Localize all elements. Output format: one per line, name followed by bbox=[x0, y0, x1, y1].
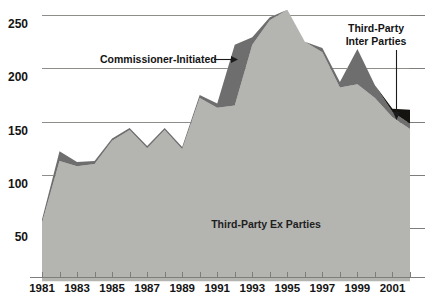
series-label-third-party-ex-parties: Third-Party Ex Parties bbox=[211, 218, 321, 230]
x-tick-label-1981: 1981 bbox=[29, 282, 55, 294]
area-chart: 1981198319851987198919911993199519971999… bbox=[0, 0, 437, 308]
x-tick-label-1999: 1999 bbox=[345, 282, 371, 294]
x-tick-label-1985: 1985 bbox=[99, 282, 125, 294]
x-tick-label-1983: 1983 bbox=[64, 282, 90, 294]
annotation-commissioner-initiated-label: Commissioner-Initiated bbox=[100, 53, 217, 65]
x-axis-tick-labels: 1981198319851987198919911993199519971999… bbox=[29, 282, 406, 294]
x-tick-label-1993: 1993 bbox=[240, 282, 266, 294]
y-tick-label-50: 50 bbox=[15, 230, 29, 244]
x-tick-label-1997: 1997 bbox=[310, 282, 336, 294]
x-tick-label-1987: 1987 bbox=[134, 282, 160, 294]
annotation-inter-parties-line2: Inter Parties bbox=[346, 35, 407, 47]
x-tick-label-1989: 1989 bbox=[169, 282, 195, 294]
annotation-inter-parties-line1: Third-Party bbox=[348, 22, 404, 34]
chart-canvas: 1981198319851987198919911993199519971999… bbox=[0, 0, 437, 308]
y-tick-label-200: 200 bbox=[8, 70, 28, 84]
y-tick-label-250: 250 bbox=[8, 17, 28, 31]
y-tick-label-100: 100 bbox=[8, 177, 28, 191]
x-tick-label-2001: 2001 bbox=[380, 282, 406, 294]
x-tick-label-1991: 1991 bbox=[204, 282, 230, 294]
y-tick-label-150: 150 bbox=[8, 124, 28, 138]
x-tick-label-1995: 1995 bbox=[275, 282, 301, 294]
